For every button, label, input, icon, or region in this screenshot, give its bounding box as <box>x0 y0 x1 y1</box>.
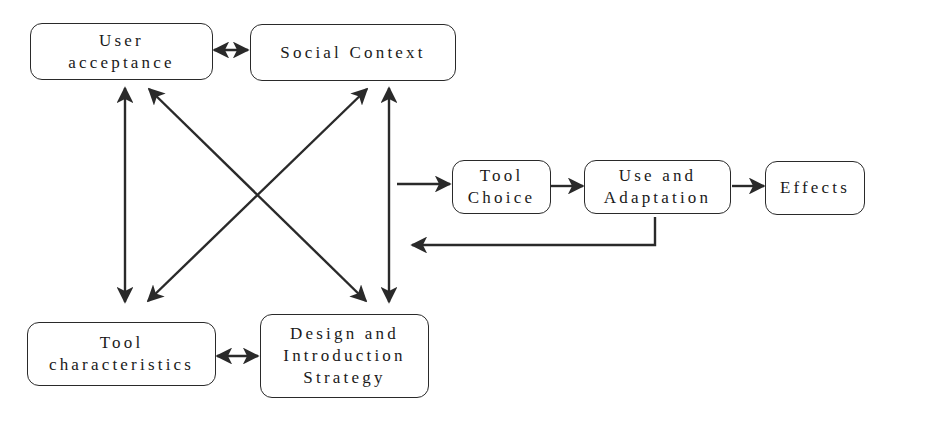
node-label-line: characteristics <box>49 354 194 376</box>
feedback-arrow <box>412 217 655 245</box>
node-label-line: Design and <box>290 323 399 345</box>
node-label-line: Effects <box>780 177 850 199</box>
node-tool-characteristics: Tool characteristics <box>27 322 216 386</box>
node-effects: Effects <box>765 161 865 215</box>
node-label-line: Tool <box>480 165 524 187</box>
node-label-line: Use and <box>619 165 697 187</box>
node-label-line: User <box>99 30 144 52</box>
node-tool-choice: Tool Choice <box>452 160 551 214</box>
node-design-introduction-strategy: Design and Introduction Strategy <box>260 314 429 398</box>
node-user-acceptance: User acceptance <box>30 23 213 80</box>
node-label-line: Choice <box>468 187 535 209</box>
node-label-line: Introduction <box>283 345 405 367</box>
node-label-line: Social Context <box>280 42 425 64</box>
node-label-line: acceptance <box>68 52 175 74</box>
node-label-line: Strategy <box>303 367 385 389</box>
node-label-line: Adaptation <box>604 187 712 209</box>
node-use-and-adaptation: Use and Adaptation <box>584 160 731 214</box>
node-social-context: Social Context <box>250 24 456 81</box>
node-label-line: Tool <box>100 332 144 354</box>
